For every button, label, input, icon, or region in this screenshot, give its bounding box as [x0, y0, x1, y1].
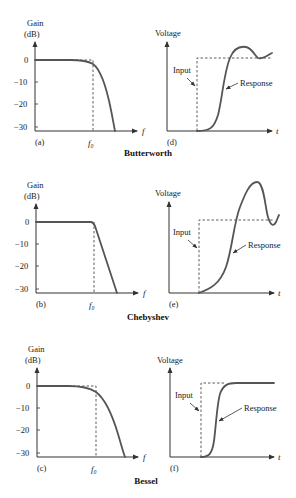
filter-caption-bessel: Bessel — [134, 476, 158, 486]
y-tick-minus20: −20 — [15, 261, 28, 271]
row-butterworth: Gain (dB) f 0 −10 −20 −30 (a) f₀ Voltage… — [14, 18, 279, 158]
response-curve — [199, 182, 279, 293]
response-curve — [197, 47, 272, 131]
x-axis-label-t: t — [276, 126, 279, 136]
y-tick-minus10: −10 — [16, 403, 29, 413]
response-pointer-arrow — [233, 245, 246, 253]
filter-caption-butterworth: Butterworth — [124, 148, 172, 158]
y-tick-minus30: −30 — [14, 122, 27, 132]
response-pointer-arrow — [226, 83, 238, 89]
panel-label: (d) — [167, 137, 177, 147]
y-tick-minus10: −10 — [15, 239, 28, 249]
y-tick-minus20: −20 — [16, 425, 29, 435]
x-axis-label-f: f — [143, 288, 147, 298]
ideal-cutoff-dashed — [37, 386, 96, 457]
y-axis-title-unit: (dB) — [25, 355, 41, 365]
response-label: Response — [248, 240, 281, 250]
cutoff-label-f0: f₀ — [88, 138, 94, 148]
step-plot-d: Voltage t Input Response (d) — [155, 28, 279, 147]
response-label: Response — [244, 403, 277, 413]
panel-label: (c) — [37, 463, 47, 473]
input-label: Input — [175, 390, 194, 400]
gain-plot-c: Gain (dB) f 0 −10 −20 −30 (c) f₀ — [16, 344, 147, 474]
x-axis-label-t: t — [278, 452, 281, 462]
gain-plot-b: Gain (dB) f 0 −10 −20 −30 (b) f₀ — [15, 180, 147, 310]
x-axis-label-t: t — [278, 288, 281, 298]
input-label: Input — [173, 227, 192, 237]
y-axis-title-gain: Gain — [27, 18, 44, 28]
y-tick-minus30: −30 — [16, 448, 29, 458]
y-axis-title-gain: Gain — [27, 180, 44, 190]
response-pointer-arrow — [219, 408, 242, 421]
response-label: Response — [240, 78, 273, 88]
y-axis-title-voltage: Voltage — [155, 188, 181, 198]
y-tick-0: 0 — [25, 217, 29, 227]
input-pointer-arrow — [187, 78, 195, 86]
panel-label: (e) — [169, 299, 179, 309]
cutoff-label-f0: f₀ — [91, 464, 97, 474]
y-tick-minus10: −10 — [14, 77, 27, 87]
gain-plot-a: Gain (dB) f 0 −10 −20 −30 (a) f₀ — [14, 18, 146, 148]
y-tick-0: 0 — [26, 381, 30, 391]
x-axis-label-f: f — [143, 452, 147, 462]
row-chebyshev: Gain (dB) f 0 −10 −20 −30 (b) f₀ Voltage… — [15, 180, 281, 322]
step-plot-e: Voltage t Input Response (e) — [155, 182, 281, 309]
y-tick-minus20: −20 — [14, 99, 27, 109]
filter-comparison-figure: Gain (dB) f 0 −10 −20 −30 (a) f₀ Voltage… — [0, 0, 296, 498]
y-tick-0: 0 — [24, 55, 28, 65]
row-bessel: Gain (dB) f 0 −10 −20 −30 (c) f₀ Voltage… — [16, 344, 281, 486]
y-axis-title-gain: Gain — [28, 344, 45, 354]
cutoff-label-f0: f₀ — [89, 300, 95, 310]
y-axis-title-unit: (dB) — [24, 29, 40, 39]
y-axis-title-voltage: Voltage — [155, 28, 181, 38]
filter-caption-chebyshev: Chebyshev — [127, 312, 170, 322]
step-plot-f: Voltage t Input Response (f) — [157, 355, 281, 473]
y-tick-minus30: −30 — [15, 284, 28, 294]
gain-curve — [37, 386, 125, 457]
panel-label: (f) — [170, 463, 179, 473]
panel-label: (a) — [35, 137, 45, 147]
input-label: Input — [173, 65, 192, 75]
input-step-dashed — [197, 58, 272, 131]
input-pointer-arrow — [188, 240, 197, 248]
gain-curve — [35, 60, 115, 131]
response-curve — [201, 383, 274, 457]
ideal-cutoff-dashed — [35, 60, 93, 131]
gain-curve — [36, 222, 117, 293]
x-axis-label-f: f — [142, 126, 146, 136]
panel-label: (b) — [36, 299, 46, 309]
input-step-dashed — [199, 220, 274, 293]
input-pointer-arrow — [190, 403, 199, 411]
y-axis-title-unit: (dB) — [24, 191, 40, 201]
y-axis-title-voltage: Voltage — [157, 355, 183, 365]
